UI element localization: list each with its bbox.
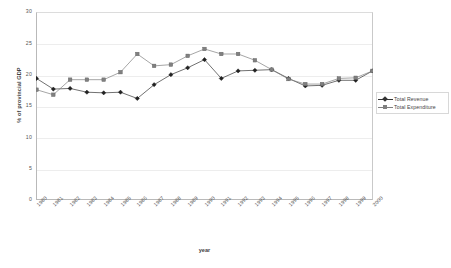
data-point-square — [68, 78, 72, 82]
data-point-square — [337, 77, 341, 81]
data-point-square — [186, 54, 190, 58]
data-point-square — [304, 82, 308, 86]
data-point-diamond — [68, 86, 72, 90]
legend-item-total-expenditure: Total Expenditure — [378, 103, 446, 111]
series-line — [37, 49, 373, 95]
data-point-diamond — [102, 91, 106, 95]
data-point-square — [371, 69, 373, 73]
data-point-square — [119, 70, 123, 74]
data-point-square — [152, 64, 156, 68]
legend-label: Total Revenue — [393, 96, 428, 102]
data-point-square — [354, 76, 358, 80]
data-point-square — [36, 88, 38, 92]
data-point-diamond — [51, 87, 55, 91]
x-axis-tick-label: 2000 — [372, 196, 384, 208]
data-point-diamond — [85, 90, 89, 94]
data-point-square — [287, 77, 291, 81]
data-point-square — [169, 63, 173, 67]
legend-marker-diamond-icon — [378, 95, 393, 103]
data-point-square — [320, 82, 324, 86]
data-point-square — [102, 78, 106, 82]
y-axis-tick-label: 15 — [4, 103, 32, 108]
data-point-square — [270, 68, 274, 72]
data-point-square — [203, 47, 207, 51]
chart-container: % of provincial GDP year Total Revenue T… — [0, 0, 451, 268]
data-point-diamond — [118, 90, 122, 94]
data-point-diamond — [253, 68, 257, 72]
data-point-square — [52, 93, 56, 97]
y-axis-tick-label: 0 — [4, 197, 32, 202]
data-point-square — [220, 52, 224, 56]
legend-label: Total Expenditure — [393, 104, 436, 110]
y-axis-tick-label: 5 — [4, 166, 32, 171]
data-point-square — [253, 58, 257, 62]
data-point-square — [236, 52, 240, 56]
data-point-square — [85, 78, 89, 82]
y-axis-tick-label: 10 — [4, 135, 32, 140]
legend-item-total-revenue: Total Revenue — [378, 95, 446, 103]
data-point-diamond — [169, 73, 173, 77]
series-layer — [36, 12, 373, 200]
x-axis-title: year — [0, 247, 409, 253]
legend-marker-square-icon — [378, 103, 393, 111]
data-point-diamond — [236, 69, 240, 73]
data-point-diamond — [186, 66, 190, 70]
y-axis-tick-label: 25 — [4, 41, 32, 46]
data-point-square — [136, 52, 140, 56]
y-axis-tick-label: 20 — [4, 72, 32, 77]
chart-legend: Total Revenue Total Expenditure — [376, 92, 449, 114]
y-axis-tick-label: 30 — [4, 9, 32, 14]
